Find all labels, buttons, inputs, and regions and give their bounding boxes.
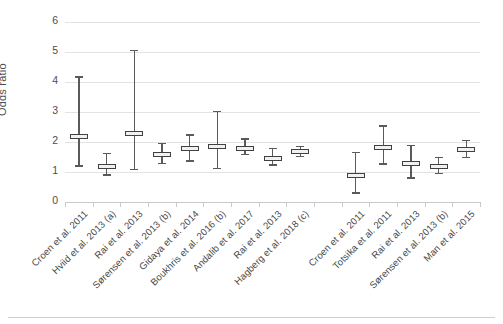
point-estimate-box xyxy=(457,147,475,152)
x-axis-label-text: Boukhris et al. 2016 (b) xyxy=(148,208,228,288)
x-tick-12 xyxy=(397,202,398,207)
x-tick-11 xyxy=(369,202,370,207)
plot-area xyxy=(65,22,480,202)
point-estimate-box xyxy=(430,164,448,169)
x-tick-15 xyxy=(480,202,481,207)
confidence-interval-cap-lower xyxy=(213,168,221,169)
point-estimate-box xyxy=(347,173,365,178)
x-axis-label-text: Hagberg et al. 2018 (c) xyxy=(232,208,311,287)
confidence-interval-cap-upper xyxy=(379,125,387,126)
point-estimate-box xyxy=(181,146,199,151)
x-tick-13 xyxy=(425,202,426,207)
x-tick-5 xyxy=(203,202,204,207)
y-tick-label-3: 3 xyxy=(38,104,58,116)
y-tick-label-0: 0 xyxy=(38,194,58,206)
confidence-interval-line xyxy=(134,51,135,170)
y-axis-title: Odds ratio* xyxy=(0,60,8,116)
confidence-interval-cap-upper xyxy=(407,145,415,146)
point-estimate-box xyxy=(264,156,282,161)
confidence-interval-cap-lower xyxy=(269,164,277,165)
x-tick-10 xyxy=(342,202,343,207)
x-axis-label-text: Sørensen et al. 2013 (b) xyxy=(367,208,450,291)
point-estimate-box xyxy=(236,146,254,151)
y-axis-title-superscript: * xyxy=(0,60,3,63)
point-estimate-box xyxy=(402,161,420,166)
confidence-interval-cap-upper xyxy=(103,153,111,154)
bottom-divider xyxy=(8,317,495,318)
x-axis-label-text: Croen et al. 2011 xyxy=(306,208,367,269)
x-tick-9 xyxy=(314,202,315,207)
gridline-5 xyxy=(65,52,480,53)
y-tick-label-5: 5 xyxy=(38,44,58,56)
confidence-interval-cap-lower xyxy=(158,163,166,164)
x-axis-label-text: Hviid et al. 2013 (a) xyxy=(49,208,117,276)
confidence-interval-cap-lower xyxy=(186,160,194,161)
x-axis-label-text: Sørensen et al. 2013 (b) xyxy=(90,208,173,291)
confidence-interval-cap-upper xyxy=(213,111,221,112)
y-tick-label-6: 6 xyxy=(38,14,58,26)
confidence-interval-line xyxy=(217,112,218,169)
x-axis-label-text: Gidaya et al. 2014 xyxy=(136,208,200,272)
y-tick-label-1: 1 xyxy=(38,164,58,176)
confidence-interval-cap-upper xyxy=(241,138,249,139)
x-tick-4 xyxy=(176,202,177,207)
point-estimate-box xyxy=(153,152,171,157)
confidence-interval-cap-lower xyxy=(241,154,249,155)
x-tick-8 xyxy=(286,202,287,207)
confidence-interval-cap-lower xyxy=(296,156,304,157)
x-axis-label-text: Croen et al. 2011 xyxy=(29,208,90,269)
confidence-interval-cap-lower xyxy=(379,163,387,164)
confidence-interval-cap-upper xyxy=(462,140,470,141)
y-tick-label-2: 2 xyxy=(38,134,58,146)
gridline-6 xyxy=(65,22,480,23)
x-tick-0 xyxy=(65,202,66,207)
confidence-interval-cap-lower xyxy=(130,169,138,170)
confidence-interval-cap-upper xyxy=(75,76,83,77)
point-estimate-box xyxy=(98,164,116,169)
confidence-interval-cap-upper xyxy=(269,148,277,149)
x-axis-label-text: Man et al. 2015 xyxy=(421,208,477,264)
point-estimate-box xyxy=(125,131,143,136)
confidence-interval-cap-lower xyxy=(103,174,111,175)
gridline-3 xyxy=(65,112,480,113)
confidence-interval-cap-lower xyxy=(435,173,443,174)
x-tick-6 xyxy=(231,202,232,207)
confidence-interval-cap-lower xyxy=(407,177,415,178)
point-estimate-box xyxy=(208,144,226,149)
confidence-interval-cap-upper xyxy=(158,143,166,144)
confidence-interval-cap-upper xyxy=(352,152,360,153)
confidence-interval-cap-lower xyxy=(75,165,83,166)
confidence-interval-line xyxy=(78,77,79,166)
x-axis-label-text: Rai et al. 2013 xyxy=(369,208,422,261)
x-tick-14 xyxy=(452,202,453,207)
confidence-interval-cap-upper xyxy=(186,134,194,135)
x-axis-label-text: Andalib et al. 2017 xyxy=(190,208,255,273)
confidence-interval-cap-lower xyxy=(462,157,470,158)
confidence-interval-cap-upper xyxy=(296,146,304,147)
confidence-interval-cap-lower xyxy=(352,192,360,193)
gridline-4 xyxy=(65,82,480,83)
x-axis-label-text: Rai et al. 2013 xyxy=(231,208,284,261)
point-estimate-box xyxy=(374,145,392,150)
point-estimate-box xyxy=(291,149,309,154)
gridline-1 xyxy=(65,172,480,173)
x-tick-3 xyxy=(148,202,149,207)
forest-plot-chart: 0123456 Odds ratio* Croen et al. 2011Hvi… xyxy=(0,0,503,324)
x-axis-label-text: Totsika et al. 2011 xyxy=(331,208,394,271)
x-tick-7 xyxy=(259,202,260,207)
x-axis-line xyxy=(65,202,480,203)
point-estimate-box xyxy=(70,134,88,139)
confidence-interval-cap-upper xyxy=(130,50,138,51)
gridline-2 xyxy=(65,142,480,143)
y-tick-label-4: 4 xyxy=(38,74,58,86)
x-axis-label-text: Rai et al. 2013 xyxy=(92,208,145,261)
y-axis-title-text: Odds ratio xyxy=(0,63,8,116)
x-tick-1 xyxy=(93,202,94,207)
x-tick-2 xyxy=(120,202,121,207)
confidence-interval-cap-upper xyxy=(435,157,443,158)
